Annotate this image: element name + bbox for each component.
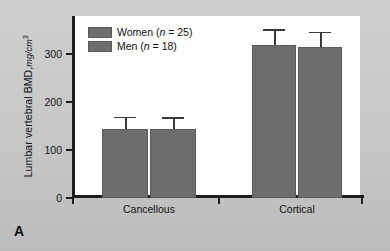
legend-label-men-name: Men (117, 40, 137, 52)
legend-label-men: Men (n = 18) (117, 40, 177, 52)
error-bar-cap (263, 29, 285, 31)
error-bar-stem (125, 117, 127, 129)
error-bar-cap (162, 117, 184, 119)
error-bar-cap (114, 117, 136, 119)
y-tick-mark (66, 101, 72, 103)
legend-label-women-name: Women (117, 26, 153, 38)
x-axis-label-cancellous: Cancellous (89, 203, 209, 215)
error-bar-cap (309, 32, 331, 34)
bar-women-cancellous (102, 129, 148, 198)
y-tick-label: 100 (26, 144, 62, 156)
x-axis-group-tick (72, 198, 74, 204)
y-tick-label: 300 (26, 48, 62, 60)
bar-men-cancellous (150, 129, 196, 198)
error-bar-stem (173, 117, 175, 129)
legend: Women (n = 25) Men (n = 18) (88, 26, 192, 54)
legend-item-women[interactable]: Women (n = 25) (88, 26, 192, 38)
y-tick-label: 200 (26, 96, 62, 108)
figure-panel: Lumbar vertebral BMD,mg/cm3 0100200300 C… (0, 0, 390, 251)
y-axis-label-unit-exponent: 3 (22, 35, 29, 39)
panel-label: A (14, 223, 24, 239)
error-bar-stem (320, 32, 322, 47)
legend-swatch-women (88, 27, 112, 38)
bar-women-cortical (252, 45, 296, 198)
legend-label-women: Women (n = 25) (117, 26, 192, 38)
error-bar-stem (274, 29, 276, 44)
y-tick-mark (66, 149, 72, 151)
x-axis-label-cortical: Cortical (237, 203, 357, 215)
legend-swatch-men (88, 41, 112, 52)
legend-label-men-value: = 18 (150, 40, 174, 52)
x-axis-group-tick (218, 198, 220, 204)
y-tick-mark (66, 53, 72, 55)
legend-item-men[interactable]: Men (n = 18) (88, 40, 192, 52)
legend-label-men-paren: (n = 18) (140, 40, 177, 52)
legend-label-women-value: = 25 (165, 26, 189, 38)
legend-label-women-paren: (n = 25) (156, 26, 193, 38)
x-axis-group-tick (361, 198, 363, 204)
y-tick-label: 0 (26, 192, 62, 204)
y-axis-label-main: Lumbar vertebral BMD, (22, 67, 34, 178)
bar-men-cortical (298, 47, 342, 198)
